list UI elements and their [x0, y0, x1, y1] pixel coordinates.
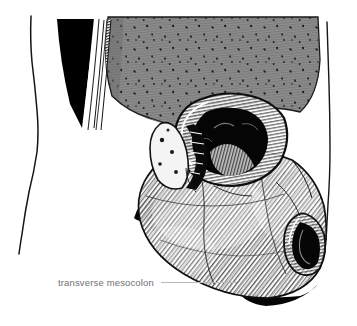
leader-line-transverse-mesocolon: [161, 282, 237, 283]
annotation-transverse-mesocolon[interactable]: transverse mesocolon: [58, 277, 237, 288]
figure-root: transverse colon greater omentum: [0, 0, 357, 326]
annotation-label-transverse-mesocolon: transverse mesocolon: [58, 277, 154, 288]
